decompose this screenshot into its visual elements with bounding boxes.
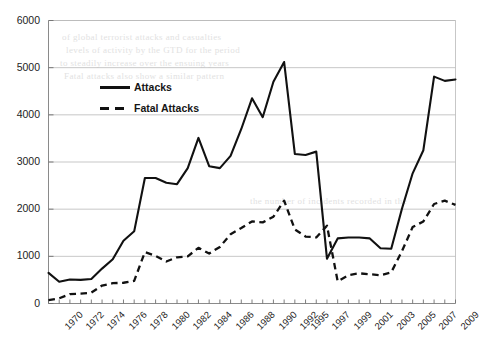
legend-label: Attacks <box>134 81 172 93</box>
data-series-layer <box>49 62 456 300</box>
legend-item-attacks: Attacks <box>100 80 172 94</box>
legend-item-fatal-attacks: Fatal Attacks <box>100 101 199 115</box>
y-axis-tick-label: 2000 <box>0 202 40 214</box>
legend-swatch-solid-line-icon <box>100 82 130 92</box>
y-axis-tick-label: 6000 <box>0 14 40 26</box>
x-axis-ticks <box>49 300 456 304</box>
y-axis-tick-label: 0 <box>0 297 40 309</box>
series-line-fatal-attacks <box>49 201 456 301</box>
y-axis-ticks <box>49 21 54 304</box>
legend-swatch-dashed-line-icon <box>100 103 130 113</box>
y-axis-tick-label: 5000 <box>0 61 40 73</box>
y-axis-tick-label: 4000 <box>0 108 40 120</box>
y-axis-tick-label: 1000 <box>0 249 40 261</box>
series-line-attacks <box>49 62 456 282</box>
y-axis-tick-label: 3000 <box>0 155 40 167</box>
legend-label: Fatal Attacks <box>134 102 199 114</box>
